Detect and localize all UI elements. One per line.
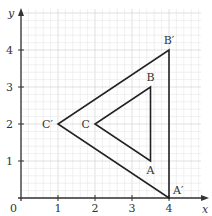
y-tick-label: 1: [6, 155, 13, 168]
coordinate-diagram: x y 0 12341234 ABCA′B′C′: [0, 0, 212, 216]
y-axis-label: y: [7, 7, 15, 20]
y-axis-arrow-icon: [18, 8, 24, 16]
vertex-label: B: [146, 71, 154, 84]
vertex-label: B′: [164, 34, 175, 47]
x-tick-label: 1: [55, 202, 62, 215]
x-tick-label: 3: [129, 202, 136, 215]
y-tick-label: 3: [6, 81, 13, 94]
x-axis-label: x: [202, 203, 209, 216]
x-axis-arrow-icon: [201, 195, 209, 201]
y-tick-label: 2: [6, 118, 13, 131]
vertex-label: A: [146, 164, 156, 177]
shapes: ABCA′B′C′: [42, 34, 184, 198]
vertex-label: C′: [42, 118, 53, 131]
x-tick-label: 2: [92, 202, 99, 215]
origin-label: 0: [10, 202, 17, 215]
vertex-label: A′: [172, 184, 184, 197]
y-tick-label: 4: [6, 44, 13, 57]
vertex-label: C: [82, 118, 90, 131]
x-tick-label: 4: [166, 202, 173, 215]
